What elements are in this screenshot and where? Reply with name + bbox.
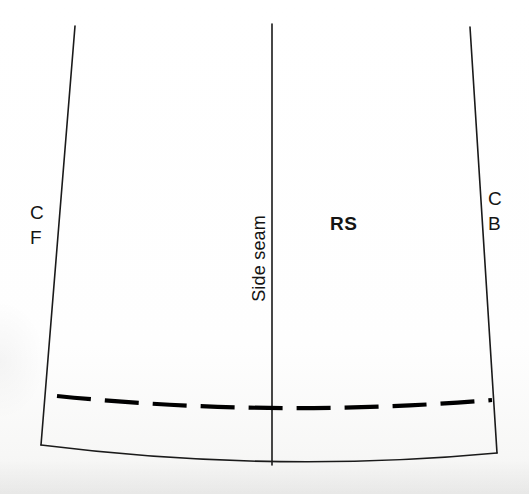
centre-back-line	[470, 27, 497, 453]
centre-front-line	[41, 26, 75, 445]
hem-edge-curve	[41, 445, 497, 462]
label-side-seam: Side seam	[250, 215, 268, 302]
pattern-diagram-page: C F C B RS Side seam	[0, 0, 529, 494]
label-centre-back-line1: C	[488, 189, 502, 208]
label-centre-front-line2: F	[30, 228, 44, 247]
hem-fold-dashed-line	[57, 396, 492, 408]
label-right-side: RS	[330, 214, 357, 233]
label-centre-back-line2: B	[488, 214, 502, 233]
label-centre-front-line1: C	[30, 203, 44, 222]
label-centre-back: C B	[488, 189, 502, 233]
label-centre-front: C F	[30, 203, 44, 247]
